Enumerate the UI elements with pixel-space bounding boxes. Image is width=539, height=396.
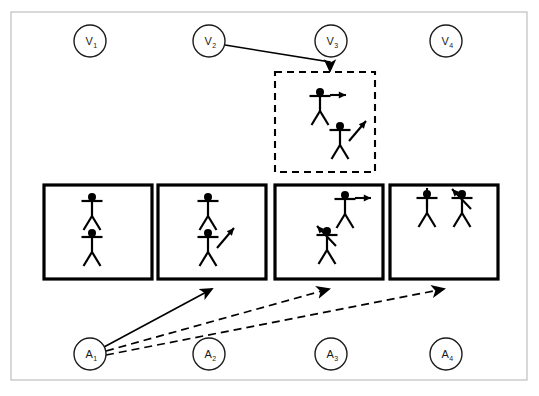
b2-fig-1-figure-head xyxy=(204,193,212,201)
node-v4[interactable]: V4 xyxy=(430,25,462,57)
dashed-state-box[interactable] xyxy=(275,72,375,172)
state-box-4[interactable] xyxy=(390,185,498,279)
dashed-state-box-outline xyxy=(275,72,375,172)
node-a4[interactable]: A4 xyxy=(430,338,462,370)
b3-fig-1-figure-head xyxy=(341,191,349,199)
node-v4-subscript: 4 xyxy=(449,42,453,49)
node-v3-subscript: 3 xyxy=(334,42,338,49)
node-a4-subscript: 4 xyxy=(449,355,453,362)
node-a3[interactable]: A3 xyxy=(315,338,347,370)
node-a1-subscript: 1 xyxy=(93,355,97,362)
node-v1-subscript: 1 xyxy=(93,42,97,49)
state-box-1-outline xyxy=(44,185,152,279)
state-box-3[interactable] xyxy=(275,185,383,279)
diagram-canvas: V1V2V3V4A1A2A3A4 xyxy=(0,0,539,396)
d-fig-1-figure-head xyxy=(316,88,324,96)
b1-fig-1-figure-head xyxy=(88,193,96,201)
state-box-2[interactable] xyxy=(158,185,266,279)
node-a2-subscript: 2 xyxy=(212,355,216,362)
node-a3-subscript: 3 xyxy=(334,355,338,362)
node-v1[interactable]: V1 xyxy=(74,25,106,57)
node-v2[interactable]: V2 xyxy=(193,25,225,57)
dashed-box-layer xyxy=(275,72,375,172)
node-v2-subscript: 2 xyxy=(212,42,216,49)
state-box-4-outline xyxy=(390,185,498,279)
state-box-2-outline xyxy=(158,185,266,279)
b2-fig-2-figure-head xyxy=(204,229,212,237)
node-a1[interactable]: A1 xyxy=(74,338,106,370)
diagram-root: V1V2V3V4A1A2A3A4 xyxy=(0,0,539,396)
d-fig-2-figure-head xyxy=(336,122,344,130)
node-v3[interactable]: V3 xyxy=(315,25,347,57)
node-a2[interactable]: A2 xyxy=(193,338,225,370)
state-box-1[interactable] xyxy=(44,185,152,279)
b1-fig-2-figure-head xyxy=(88,229,96,237)
